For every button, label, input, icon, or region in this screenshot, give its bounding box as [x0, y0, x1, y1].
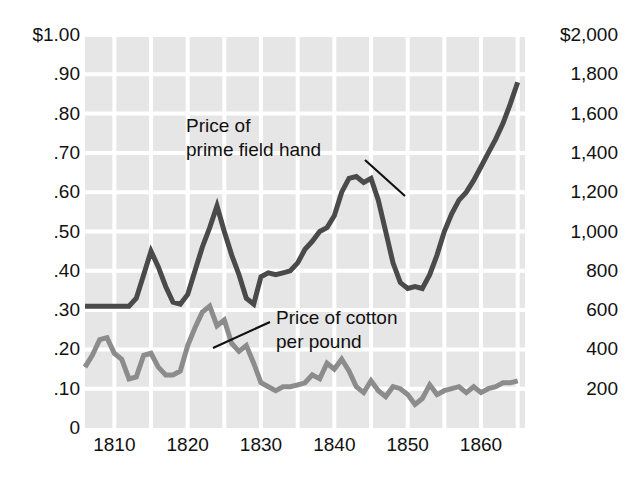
x-axis-tick-label: 1850: [378, 434, 438, 456]
right-axis-tick-label: 1,200: [532, 181, 618, 203]
left-axis-tick-label: .10: [6, 378, 80, 400]
left-axis-tick-label: .60: [6, 181, 80, 203]
right-axis-tick-label: 800: [532, 260, 618, 282]
cotton-price-annotation: Price of cotton per pound: [276, 306, 397, 354]
chart-figure: $1.00.90.80.70.60.50.40.30.20.100 $2,000…: [0, 0, 624, 478]
right-axis-tick-label: $2,000: [532, 24, 618, 46]
x-axis-tick-label: 1820: [158, 434, 218, 456]
x-axis-tick-label: 1840: [304, 434, 364, 456]
right-axis-tick-label: 200: [532, 378, 618, 400]
x-axis-tick-label: 1830: [231, 434, 291, 456]
right-axis-tick-label: 1,000: [532, 221, 618, 243]
left-axis-tick-label: $1.00: [6, 24, 80, 46]
chart-plot-area: [0, 0, 624, 478]
left-axis-tick-label: .90: [6, 63, 80, 85]
slave-price-annotation: Price of prime field hand: [186, 114, 321, 162]
right-axis-tick-label: 1,800: [532, 63, 618, 85]
right-axis-tick-label: 400: [532, 338, 618, 360]
left-axis-tick-label: .20: [6, 338, 80, 360]
right-axis-tick-label: 600: [532, 299, 618, 321]
right-axis-tick-label: 1,600: [532, 103, 618, 125]
left-axis-tick-label: .40: [6, 260, 80, 282]
left-axis-tick-label: 0: [6, 417, 80, 439]
left-axis-tick-label: .30: [6, 299, 80, 321]
left-axis-tick-label: .50: [6, 221, 80, 243]
right-axis-tick-label: 1,400: [532, 142, 618, 164]
left-axis-tick-label: .70: [6, 142, 80, 164]
x-axis-tick-label: 1860: [451, 434, 511, 456]
x-axis-tick-label: 1810: [84, 434, 144, 456]
left-axis-tick-label: .80: [6, 103, 80, 125]
